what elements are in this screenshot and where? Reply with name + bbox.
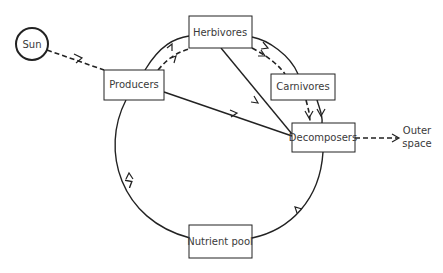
node-outer-space: Outer space [402,125,432,149]
producers-label: Producers [109,79,159,90]
herbivores-label: Herbivores [193,27,247,38]
carnivores-label: Carnivores [276,81,329,92]
sun-label: Sun [22,39,41,50]
arrowhead-icon [230,110,237,117]
outer-space-label-2: space [402,138,431,149]
edge-producers-to-herbivores-energy [158,49,189,70]
node-decomposers: Decomposers [289,123,357,152]
decomposers-label: Decomposers [289,132,357,143]
node-producers: Producers [104,70,164,100]
arrowhead-icon [167,44,172,51]
edge-carnivores-to-decomposers-energy [306,100,310,123]
node-herbivores: Herbivores [189,16,252,48]
node-carnivores: Carnivores [271,74,335,100]
ecosystem-cycle-diagram: Sun Producers Herbivores Carnivores Deco… [0,0,443,273]
edge-producers-to-herbivores [145,36,189,70]
node-nutrient-pool: Nutrient pool [187,225,253,258]
edge-sun-to-producers [47,50,104,70]
edge-decomposers-to-nutrient [252,152,323,238]
arrowhead-icon [251,96,258,103]
arrowhead-icon [126,173,133,179]
outer-space-label-1: Outer [403,125,432,136]
node-sun: Sun [16,28,48,60]
edge-nutrient-to-producers [115,100,190,238]
nutrient-pool-label: Nutrient pool [187,236,253,247]
